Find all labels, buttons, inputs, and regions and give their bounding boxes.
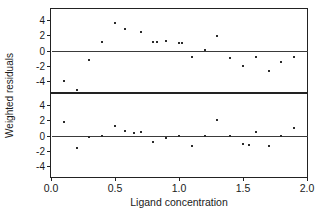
data-point [181,42,183,44]
data-point [242,65,244,67]
zero-reference-line [52,51,308,52]
y-axis-tick-label: -2 [23,65,45,66]
data-point [255,131,257,133]
data-point [88,59,90,61]
data-point [76,147,78,149]
y-axis-tick-mark [47,81,51,82]
y-axis-tick-label: -4 [23,165,45,166]
data-point [216,35,218,37]
data-point [229,135,231,137]
upper-panel: -4-2024 [50,8,308,93]
data-point [268,70,270,72]
data-point [140,31,142,33]
data-point [280,135,282,137]
y-axis-tick-mark [47,51,51,52]
y-axis-tick-label: 2 [23,35,45,36]
data-point [280,61,282,63]
x-axis-tick-label: 2.0 [292,182,322,194]
zero-reference-line [52,136,308,137]
y-axis-tick-label: -2 [23,150,45,151]
x-axis-tick-mark [243,177,244,181]
data-point [255,56,257,58]
y-axis-tick-mark [47,151,51,152]
data-point [165,137,167,139]
x-axis-tick-label: 1.5 [228,182,258,194]
x-axis-tick-label: 1.0 [164,182,194,194]
x-axis-tick-label: 0.0 [36,182,66,194]
data-point [216,119,218,121]
data-point [101,135,103,137]
data-point [156,41,158,43]
data-point [152,41,154,43]
data-point [229,57,231,59]
data-point [178,135,180,137]
y-axis-tick-mark [47,35,51,36]
data-point [140,131,142,133]
data-point [293,56,295,58]
data-point [114,22,116,24]
data-point [124,28,126,30]
y-axis-label-container: Weighted residuals [1,0,17,180]
y-axis-tick-label: -4 [23,80,45,81]
y-axis-tick-mark [47,166,51,167]
x-axis-tick-label: 0.5 [100,182,130,194]
y-axis-tick-mark [47,136,51,137]
data-point [63,121,65,123]
y-axis-tick-mark [47,105,51,106]
data-point [114,125,116,127]
data-point [242,143,244,145]
x-axis-tick-mark [179,177,180,181]
data-point [293,127,295,129]
data-point [268,145,270,147]
x-axis-tick-mark [307,177,308,181]
x-axis-tick-mark [51,177,52,181]
y-axis-tick-mark [47,66,51,67]
y-axis-tick-mark [47,120,51,121]
data-point [88,136,90,138]
data-point [124,130,126,132]
data-point [101,41,103,43]
data-point [204,49,206,51]
data-point [63,80,65,82]
y-axis-tick-label: 2 [23,120,45,121]
y-axis-tick-mark [47,20,51,21]
data-point [76,89,78,91]
y-axis-tick-label: 0 [23,50,45,51]
data-point [204,135,206,137]
lower-panel: -4-2024 [50,93,308,178]
data-point [191,145,193,147]
data-point [133,132,135,134]
y-axis-tick-label: 4 [23,105,45,106]
y-axis-tick-label: 4 [23,20,45,21]
x-axis-label: Ligand concentration [50,196,308,208]
x-axis-tick-mark [115,177,116,181]
data-point [152,141,154,143]
data-point [191,56,193,58]
data-point [165,40,167,42]
residual-plot-figure: Weighted residuals -4-2024 -4-2024 Ligan… [0,0,330,215]
data-point [248,144,250,146]
y-axis-tick-label: 0 [23,135,45,136]
y-axis-label: Weighted residuals [4,6,15,186]
